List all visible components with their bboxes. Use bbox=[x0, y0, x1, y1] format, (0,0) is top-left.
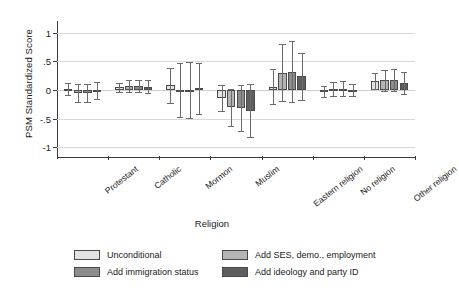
error-bar-line bbox=[250, 84, 251, 137]
y-tick-mark bbox=[53, 90, 57, 91]
error-bar-cap-lower bbox=[177, 117, 183, 118]
error-bar-cap-upper bbox=[177, 63, 183, 64]
error-bar-cap-lower bbox=[135, 92, 141, 93]
y-tick-label: -1 bbox=[43, 142, 51, 153]
error-bar-cap-upper bbox=[391, 69, 397, 70]
error-bar-cap-lower bbox=[279, 101, 285, 102]
error-bar-cap-lower bbox=[349, 96, 355, 97]
error-bar-cap-upper bbox=[94, 82, 100, 83]
error-bar-cap-upper bbox=[196, 63, 202, 64]
x-tick-label: Protestant bbox=[103, 164, 140, 196]
error-bar-cap-upper bbox=[298, 53, 304, 54]
error-bar-line bbox=[343, 81, 344, 96]
error-bar-line bbox=[180, 63, 181, 117]
error-bar-line bbox=[129, 80, 130, 93]
error-bar-cap-upper bbox=[126, 80, 132, 81]
x-tick-mark bbox=[210, 156, 211, 160]
chart-legend: UnconditionalAdd SES, demo., employmentA… bbox=[74, 246, 374, 280]
error-bar-cap-upper bbox=[247, 84, 253, 85]
error-bar-cap-lower bbox=[238, 131, 244, 132]
error-bar-cap-upper bbox=[381, 70, 387, 71]
error-bar-cap-upper bbox=[238, 85, 244, 86]
legend-swatch bbox=[74, 267, 100, 277]
x-tick-label: Mormon bbox=[203, 164, 234, 191]
gridline bbox=[57, 61, 415, 62]
error-bar-cap-upper bbox=[186, 62, 192, 63]
y-tick-label: .5 bbox=[43, 56, 51, 67]
error-bar-cap-lower bbox=[228, 126, 234, 127]
legend-item: Add immigration status bbox=[74, 267, 222, 277]
error-bar-cap-upper bbox=[289, 41, 295, 42]
error-bar-line bbox=[199, 63, 200, 114]
legend-label: Add ideology and party ID bbox=[255, 267, 359, 277]
error-bar-cap-upper bbox=[84, 84, 90, 85]
error-bar-cap-upper bbox=[218, 85, 224, 86]
error-bar-cap-upper bbox=[401, 72, 407, 73]
x-tick-mark bbox=[415, 156, 416, 160]
x-tick-label: Eastern religion bbox=[311, 164, 364, 209]
gridline bbox=[57, 33, 415, 34]
x-tick-mark bbox=[364, 156, 365, 160]
y-tick-label: 0 bbox=[46, 85, 51, 96]
error-bar-cap-lower bbox=[218, 111, 224, 112]
error-bar-line bbox=[97, 82, 98, 99]
error-bar-line bbox=[302, 53, 303, 100]
error-bar-cap-lower bbox=[145, 93, 151, 94]
gridline bbox=[57, 147, 415, 148]
x-tick-label: Muslim bbox=[253, 164, 281, 189]
error-bar-cap-upper bbox=[145, 80, 151, 81]
error-bar-cap-upper bbox=[321, 86, 327, 87]
error-bar-line bbox=[222, 85, 223, 111]
error-bar-cap-lower bbox=[196, 114, 202, 115]
error-bar-cap-upper bbox=[279, 44, 285, 45]
error-bar-cap-lower bbox=[391, 91, 397, 92]
error-bar-cap-lower bbox=[298, 100, 304, 101]
error-bar-cap-upper bbox=[330, 82, 336, 83]
error-bar-line bbox=[170, 68, 171, 102]
error-bar-cap-upper bbox=[349, 84, 355, 85]
legend-item: Unconditional bbox=[74, 250, 222, 260]
error-bar-line bbox=[119, 83, 120, 92]
y-tick-mark bbox=[53, 33, 57, 34]
error-bar-line bbox=[78, 84, 79, 102]
legend-label: Add SES, demo., employment bbox=[255, 250, 376, 260]
error-bar-cap-upper bbox=[135, 80, 141, 81]
error-bar-cap-lower bbox=[94, 99, 100, 100]
x-axis-title: Religion bbox=[0, 218, 424, 229]
error-bar-line bbox=[231, 89, 232, 126]
error-bar-cap-lower bbox=[186, 118, 192, 119]
error-bar-line bbox=[87, 84, 88, 102]
x-tick-mark bbox=[262, 156, 263, 160]
error-bar-cap-lower bbox=[330, 96, 336, 97]
error-bar-cap-upper bbox=[340, 81, 346, 82]
legend-label: Add immigration status bbox=[107, 267, 199, 277]
error-bar-line bbox=[139, 80, 140, 93]
error-bar-cap-lower bbox=[270, 104, 276, 105]
error-bar-cap-upper bbox=[116, 83, 122, 84]
error-bar-cap-lower bbox=[84, 102, 90, 103]
error-bar-cap-upper bbox=[270, 69, 276, 70]
error-bar-line bbox=[282, 44, 283, 101]
error-bar-cap-upper bbox=[372, 73, 378, 74]
legend-item: Add SES, demo., employment bbox=[222, 250, 374, 260]
error-bar-line bbox=[375, 73, 376, 89]
x-tick-mark bbox=[108, 156, 109, 160]
y-tick-mark bbox=[53, 61, 57, 62]
error-bar-cap-lower bbox=[247, 137, 253, 138]
error-bar-cap-lower bbox=[65, 95, 71, 96]
error-bar-cap-lower bbox=[289, 102, 295, 103]
x-tick-mark bbox=[313, 156, 314, 160]
legend-swatch bbox=[222, 267, 248, 277]
x-tick-label: No religion bbox=[359, 164, 398, 197]
error-bar-cap-upper bbox=[228, 89, 234, 90]
error-bar-line bbox=[333, 82, 334, 96]
x-tick-label: Other religion bbox=[412, 164, 459, 204]
error-bar-line bbox=[68, 83, 69, 96]
error-bar-line bbox=[148, 80, 149, 93]
axis-line-bottom bbox=[57, 157, 415, 158]
y-tick-label: -.5 bbox=[40, 113, 51, 124]
legend-swatch bbox=[74, 250, 100, 260]
error-bar-cap-lower bbox=[75, 102, 81, 103]
error-bar-line bbox=[353, 84, 354, 97]
error-bar-cap-upper bbox=[75, 84, 81, 85]
